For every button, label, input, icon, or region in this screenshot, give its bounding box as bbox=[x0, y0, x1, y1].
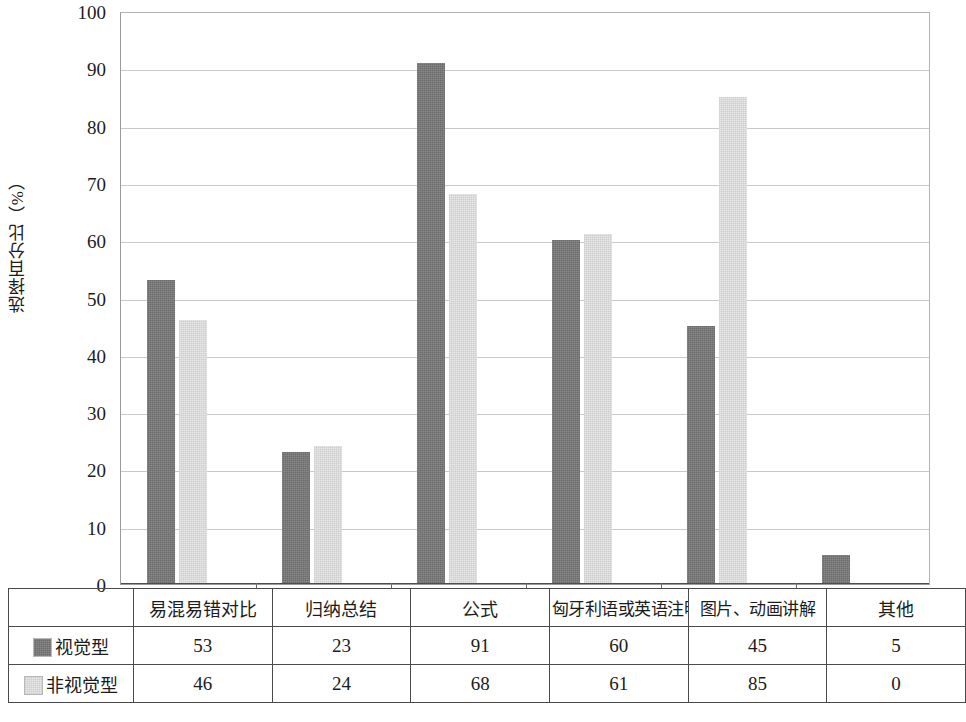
column-header-label: 匈牙利语或英语注明 bbox=[552, 600, 688, 619]
legend-item-非视觉型: 非视觉型 bbox=[9, 665, 134, 703]
table-cell-非视觉型-其他: 0 bbox=[827, 665, 966, 703]
column-header-label: 公式 bbox=[462, 600, 498, 620]
bar-视觉型-图片、动画讲解 bbox=[687, 326, 715, 584]
table-cell-非视觉型-易混易错对比: 46 bbox=[134, 665, 273, 703]
y-axis-tick-labels: 1009080706050403020100 bbox=[52, 12, 114, 585]
table-cell-视觉型-易混易错对比: 53 bbox=[134, 627, 273, 665]
table-cell-非视觉型-匈牙利语或英语注明: 61 bbox=[549, 665, 688, 703]
dark-gray-swatch bbox=[33, 638, 52, 657]
table-cell-非视觉型-归纳总结: 24 bbox=[272, 665, 411, 703]
table-cell-视觉型-匈牙利语或英语注明: 60 bbox=[549, 627, 688, 665]
table-column-header-2: 归纳总结 bbox=[272, 589, 411, 627]
y-axis-tick-90: 90 bbox=[87, 60, 106, 79]
y-axis-tick-100: 100 bbox=[78, 3, 107, 22]
bar-非视觉型-易混易错对比 bbox=[179, 320, 207, 584]
bars-layer bbox=[121, 13, 929, 584]
table-column-header-4: 匈牙利语或英语注明 bbox=[549, 589, 688, 627]
table-cell-视觉型-归纳总结: 23 bbox=[272, 627, 411, 665]
bar-非视觉型-公式 bbox=[449, 194, 477, 584]
column-header-label: 易混易错对比 bbox=[149, 600, 257, 620]
legend-label: 视觉型 bbox=[55, 638, 109, 658]
table-cell-视觉型-图片、动画讲解: 45 bbox=[688, 627, 827, 665]
table-cell-非视觉型-公式: 68 bbox=[411, 665, 550, 703]
y-axis-tick-30: 30 bbox=[87, 404, 106, 423]
y-axis-tick-80: 80 bbox=[87, 117, 106, 136]
table-column-header-3: 公式 bbox=[411, 589, 550, 627]
column-header-label: 其他 bbox=[878, 600, 914, 620]
y-axis-tick-10: 10 bbox=[87, 518, 106, 537]
table-column-header-6: 其他 bbox=[827, 589, 966, 627]
table-row: 视觉型53239160455 bbox=[9, 627, 966, 665]
x-axis-line bbox=[121, 583, 929, 584]
bar-视觉型-归纳总结 bbox=[282, 452, 310, 584]
light-gray-swatch bbox=[24, 676, 43, 695]
table-row: 非视觉型46246861850 bbox=[9, 665, 966, 703]
table-corner-cell bbox=[9, 589, 134, 627]
table-column-header-1: 易混易错对比 bbox=[134, 589, 273, 627]
bar-视觉型-其他 bbox=[822, 555, 850, 584]
y-axis-tick-20: 20 bbox=[87, 461, 106, 480]
table-header-row: 易混易错对比归纳总结公式匈牙利语或英语注明图片、动画讲解其他 bbox=[9, 589, 966, 627]
bar-非视觉型-图片、动画讲解 bbox=[719, 97, 747, 584]
plot-area bbox=[120, 12, 930, 585]
legend-item-视觉型: 视觉型 bbox=[9, 627, 134, 665]
bar-非视觉型-归纳总结 bbox=[314, 446, 342, 584]
column-header-label: 图片、动画讲解 bbox=[700, 600, 816, 619]
bar-非视觉型-匈牙利语或英语注明 bbox=[584, 234, 612, 584]
column-header-label: 归纳总结 bbox=[305, 600, 377, 620]
y-axis-tick-40: 40 bbox=[87, 346, 106, 365]
y-axis-tick-60: 60 bbox=[87, 232, 106, 251]
data-table: 易混易错对比归纳总结公式匈牙利语或英语注明图片、动画讲解其他视觉型5323916… bbox=[8, 588, 966, 703]
y-axis-title: 选择百分比（%） bbox=[8, 172, 34, 313]
table-cell-视觉型-公式: 91 bbox=[411, 627, 550, 665]
bar-视觉型-匈牙利语或英语注明 bbox=[552, 240, 580, 584]
table-cell-视觉型-其他: 5 bbox=[827, 627, 966, 665]
table-column-header-5: 图片、动画讲解 bbox=[688, 589, 827, 627]
table-cell-非视觉型-图片、动画讲解: 85 bbox=[688, 665, 827, 703]
bar-视觉型-易混易错对比 bbox=[147, 280, 175, 584]
bar-视觉型-公式 bbox=[417, 63, 445, 584]
legend-label: 非视觉型 bbox=[46, 676, 118, 696]
y-axis-tick-50: 50 bbox=[87, 289, 106, 308]
y-axis-tick-70: 70 bbox=[87, 174, 106, 193]
